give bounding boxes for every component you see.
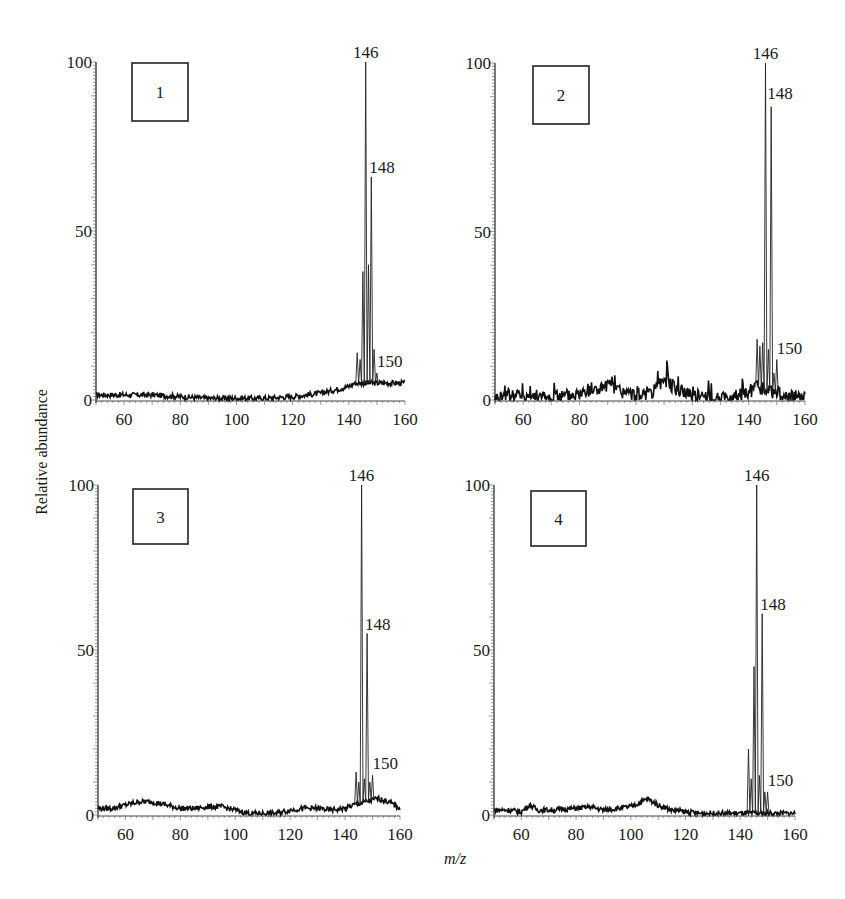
spectrum-peak xyxy=(359,359,362,383)
x-tick-label: 160 xyxy=(392,410,418,429)
spectrum-peak xyxy=(373,349,376,383)
mass-spectra-figure: 0501006080100120140160146148150105010060… xyxy=(0,0,845,899)
spectrum-peak xyxy=(764,63,767,390)
y-tick-label: 50 xyxy=(75,222,92,241)
peak-label-150: 150 xyxy=(777,339,803,358)
spectrum-peak xyxy=(360,485,363,803)
spectrum-panel-3: 05010060801001201401601461481503 xyxy=(69,466,413,844)
peak-label-146: 146 xyxy=(349,466,375,485)
spectrum-peak xyxy=(756,339,759,387)
spectrum-peak xyxy=(370,177,373,383)
y-tick-label: 50 xyxy=(77,641,94,660)
x-tick-label: 60 xyxy=(513,825,530,844)
x-tick-label: 140 xyxy=(728,825,754,844)
spectrum-peak xyxy=(767,349,770,390)
y-tick-label: 0 xyxy=(86,806,95,825)
peak-label-148: 148 xyxy=(369,158,395,177)
x-tick-label: 100 xyxy=(224,410,250,429)
spectrum-peak xyxy=(356,353,359,383)
x-tick-label: 100 xyxy=(623,410,649,429)
peak-label-148: 148 xyxy=(760,595,786,614)
x-tick-label: 160 xyxy=(387,825,413,844)
x-tick-label: 60 xyxy=(117,825,134,844)
x-tick-label: 120 xyxy=(680,410,706,429)
spectrum-peak xyxy=(362,272,365,384)
x-tick-label: 80 xyxy=(568,825,585,844)
spectrum-panel-2: 05010060801001201401601461481502 xyxy=(466,44,818,429)
x-tick-label: 100 xyxy=(223,825,249,844)
x-tick-label: 120 xyxy=(280,410,306,429)
x-tick-label: 60 xyxy=(116,410,133,429)
x-tick-label: 120 xyxy=(673,825,699,844)
peak-label-150: 150 xyxy=(377,352,403,371)
y-tick-label: 100 xyxy=(466,54,492,73)
spectrum-peak xyxy=(761,614,764,814)
spectrum-peak xyxy=(750,779,753,814)
y-tick-label: 0 xyxy=(483,391,492,410)
spectrum-panel-1: 05010060801001201401601461481501 xyxy=(67,43,418,429)
peak-label-150: 150 xyxy=(373,754,399,773)
x-tick-label: 140 xyxy=(736,410,762,429)
x-tick-label: 80 xyxy=(571,410,588,429)
peak-label-148: 148 xyxy=(767,84,793,103)
x-tick-label: 80 xyxy=(172,825,189,844)
y-axis-title: Relative abundance xyxy=(33,389,50,515)
spectrum-peak xyxy=(759,346,762,388)
spectrum-peak xyxy=(371,775,374,800)
y-tick-label: 0 xyxy=(482,806,491,825)
spectrum-baseline-trace xyxy=(96,381,405,401)
spectrum-peak xyxy=(747,749,750,813)
peak-label-146: 146 xyxy=(753,44,779,63)
x-tick-label: 160 xyxy=(782,825,808,844)
spectrum-peak xyxy=(366,634,369,802)
y-tick-label: 50 xyxy=(474,223,491,242)
y-tick-label: 100 xyxy=(465,476,491,495)
spectrum-peak xyxy=(773,373,776,392)
peak-label-146: 146 xyxy=(744,466,770,485)
spectrum-peak xyxy=(355,772,358,804)
spectrum-peak xyxy=(364,62,367,383)
spectrum-peak xyxy=(775,360,778,393)
x-tick-label: 140 xyxy=(336,410,362,429)
x-tick-label: 140 xyxy=(332,825,358,844)
spectrum-peak xyxy=(761,343,764,389)
spectrum-panel-4: 05010060801001201401601461481504 xyxy=(465,466,808,844)
spectrum-peak xyxy=(770,107,773,391)
peak-label-150: 150 xyxy=(768,771,794,790)
peak-label-146: 146 xyxy=(353,43,379,62)
panel-number: 3 xyxy=(156,508,165,527)
spectrum-peak xyxy=(755,485,758,813)
y-tick-label: 50 xyxy=(473,641,490,660)
x-tick-label: 80 xyxy=(172,410,189,429)
y-tick-label: 100 xyxy=(69,476,95,495)
panel-number: 4 xyxy=(554,510,563,529)
x-tick-label: 120 xyxy=(277,825,303,844)
spectrum-peak xyxy=(758,775,761,813)
peak-label-148: 148 xyxy=(365,615,391,634)
panel-number: 2 xyxy=(557,86,566,105)
x-tick-label: 60 xyxy=(515,410,532,429)
y-tick-label: 100 xyxy=(67,53,93,72)
x-tick-label: 160 xyxy=(792,410,818,429)
spectrum-peak xyxy=(367,265,370,383)
x-axis-title: m/z xyxy=(444,850,467,867)
y-tick-label: 0 xyxy=(84,391,93,410)
panel-number: 1 xyxy=(156,83,165,102)
x-tick-label: 100 xyxy=(618,825,644,844)
